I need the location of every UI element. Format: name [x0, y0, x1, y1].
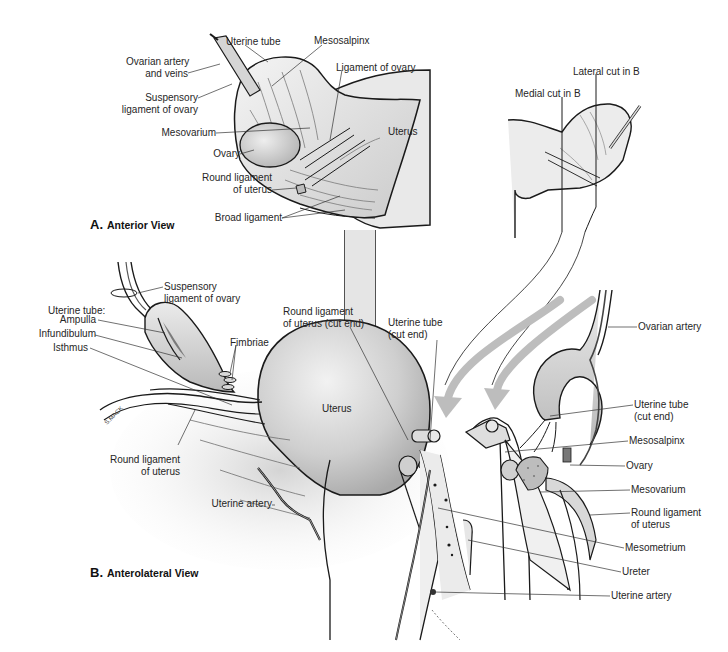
label-a-round-ligament-1: Round ligament: [190, 172, 272, 184]
label-b-uterine-tube-cut-1: Uterine tube: [388, 317, 442, 329]
caption-a-letter: A.: [90, 217, 103, 232]
label-a-uterine-tube: Uterine tube: [226, 36, 280, 48]
label-b-uterine-tube-cut-2: (cut end): [388, 329, 427, 341]
label-b-uterine-tube-cut-r2: (cut end): [634, 411, 673, 423]
label-b-isthmus: Isthmus: [40, 342, 88, 354]
label-a-suspensory-1: Suspensory: [108, 92, 198, 104]
label-b-round-ligament-cut-2: of uterus (cut end): [283, 318, 364, 330]
caption-b-letter: B.: [90, 565, 103, 580]
caption-a-title: Anterior View: [107, 219, 175, 231]
label-a-ovary: Ovary: [200, 148, 240, 160]
label-b-round-ligament-r2: of uterus: [631, 519, 670, 531]
label-b-uterine-artery-left: Uterine artery: [180, 498, 272, 510]
label-b-round-ligament-left-1: Round ligament: [100, 454, 180, 466]
label-b-fimbriae: Fimbriae: [230, 337, 269, 349]
label-b-mesometrium: Mesometrium: [625, 542, 686, 554]
label-b-uterus: Uterus: [322, 403, 351, 415]
label-b-round-ligament-left-2: of uterus: [100, 466, 180, 478]
caption-panel-b: B.Anterolateral View: [90, 565, 198, 580]
label-b-mesovarium: Mesovarium: [631, 484, 685, 496]
label-b-ovarian-artery: Ovarian artery: [638, 321, 701, 333]
label-a-broad-ligament: Broad ligament: [200, 212, 282, 224]
label-b-uterine-artery-right: Uterine artery: [611, 590, 672, 602]
label-b-ovary: Ovary: [626, 460, 653, 472]
broad-ligament-figure: S.MACK: [0, 0, 728, 652]
label-a-suspensory-2: ligament of ovary: [108, 104, 198, 116]
label-a-ligament-of-ovary: Ligament of ovary: [336, 62, 416, 74]
label-b-infundibulum: Infundibulum: [20, 328, 96, 340]
label-b-round-ligament-r1: Round ligament: [631, 507, 701, 519]
label-b-uterine-tube-cut-r1: Uterine tube: [634, 399, 688, 411]
label-a-uterus: Uterus: [388, 126, 417, 138]
label-a-ovarian-artery-1: Ovarian artery: [126, 56, 188, 68]
label-b-suspensory-1: Suspensory: [164, 281, 217, 293]
label-medial-cut: Medial cut in B: [515, 88, 581, 100]
label-b-suspensory-2: ligament of ovary: [164, 293, 240, 305]
label-b-ureter: Ureter: [622, 566, 650, 578]
label-lateral-cut: Lateral cut in B: [573, 66, 640, 78]
artist-signature: S.MACK: [103, 405, 124, 426]
label-a-round-ligament-2: of uterus: [190, 184, 272, 196]
label-a-mesosalpinx: Mesosalpinx: [314, 35, 370, 47]
label-b-round-ligament-cut-1: Round ligament: [283, 306, 353, 318]
caption-panel-a: A.Anterior View: [90, 217, 175, 232]
label-a-mesovarium: Mesovarium: [140, 127, 216, 139]
label-b-mesosalpinx: Mesosalpinx: [629, 435, 685, 447]
label-a-ovarian-artery-2: and veins: [126, 68, 188, 80]
caption-b-title: Anterolateral View: [107, 567, 198, 579]
label-b-ampulla: Ampulla: [40, 314, 96, 326]
